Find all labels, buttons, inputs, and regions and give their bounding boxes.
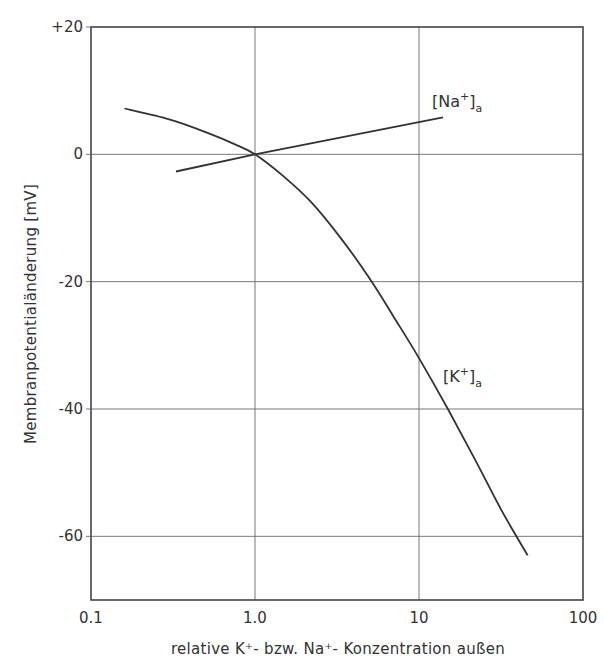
y-tick-label: -60 (59, 527, 84, 545)
membrane-potential-chart: +200-20-40-60 0.11.010100 [Na+]a [K+]a r… (0, 0, 604, 667)
x-tick-label: 0.1 (79, 609, 103, 627)
na-concentration-line (176, 117, 443, 171)
y-tick-label: +20 (51, 18, 83, 36)
x-tick-label: 1.0 (243, 609, 267, 627)
y-axis-label: Membranpotentialänderung [mV] (22, 184, 40, 444)
na-series-label: [Na+]a (432, 90, 482, 115)
plot-frame (91, 27, 583, 600)
y-tick-label: 0 (73, 145, 83, 163)
x-axis-label: relative K⁺- bzw. Na⁺- Konzentration auß… (171, 640, 505, 658)
data-series (125, 109, 528, 556)
x-tick-label: 100 (569, 609, 598, 627)
x-tick-label: 10 (409, 609, 428, 627)
grid-lines (91, 27, 583, 600)
y-tick-label: -20 (59, 273, 84, 291)
y-tick-label: -40 (59, 400, 84, 418)
y-axis-ticks: +200-20-40-60 (51, 18, 91, 545)
x-axis-ticks: 0.11.010100 (79, 609, 597, 627)
k-concentration-curve (125, 109, 528, 556)
k-series-label: [K+]a (443, 365, 482, 390)
